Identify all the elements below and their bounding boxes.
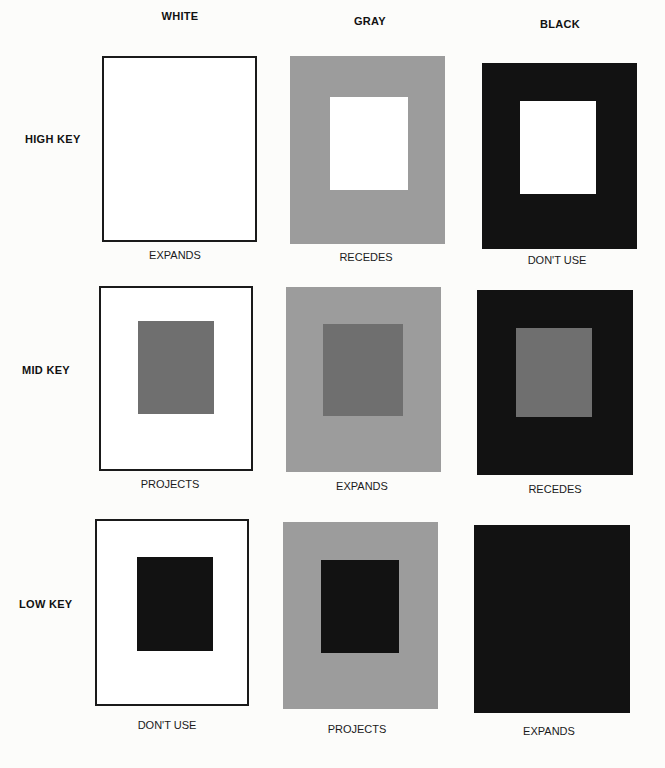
- swatch-panel-mid-key-gray: [286, 287, 441, 472]
- panel-caption: EXPANDS: [336, 480, 388, 492]
- panel-caption: RECEDES: [339, 251, 392, 263]
- swatch-panel-high-key-white: [102, 56, 257, 242]
- inner-swatch: [323, 324, 403, 416]
- panel-caption: EXPANDS: [149, 249, 201, 261]
- panel-caption: DON'T USE: [528, 254, 587, 266]
- panel-caption: RECEDES: [528, 483, 581, 495]
- swatch-panel-mid-key-black: [477, 290, 633, 475]
- swatch-panel-high-key-black: [482, 63, 637, 249]
- panel-caption: PROJECTS: [141, 478, 200, 490]
- inner-swatch: [516, 328, 592, 417]
- panel-caption: PROJECTS: [328, 723, 387, 735]
- swatch-panel-low-key-black: [474, 525, 630, 713]
- row-header-mid-key: MID KEY: [22, 364, 70, 376]
- swatch-panel-low-key-white: [95, 519, 249, 706]
- inner-swatch: [321, 560, 399, 653]
- panel-caption: DON'T USE: [138, 719, 197, 731]
- inner-swatch: [520, 101, 596, 194]
- swatch-panel-low-key-gray: [283, 522, 438, 709]
- swatch-panel-high-key-gray: [290, 56, 445, 244]
- inner-swatch: [137, 557, 213, 651]
- inner-swatch: [138, 321, 214, 414]
- inner-swatch: [330, 97, 408, 190]
- row-header-low-key: LOW KEY: [19, 598, 72, 610]
- panel-caption: EXPANDS: [523, 725, 575, 737]
- column-header-white: WHITE: [162, 10, 199, 22]
- swatch-panel-mid-key-white: [99, 286, 253, 471]
- column-header-gray: GRAY: [354, 15, 386, 27]
- column-header-black: BLACK: [540, 18, 580, 30]
- row-header-high-key: HIGH KEY: [25, 133, 81, 145]
